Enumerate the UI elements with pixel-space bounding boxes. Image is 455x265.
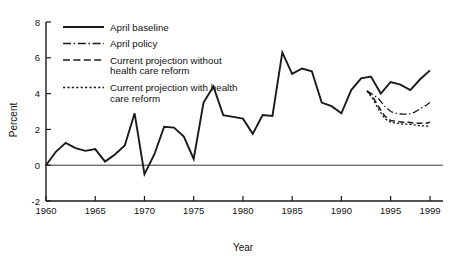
y-tick-label: 4 (35, 88, 40, 99)
y-axis-title: Percent (8, 103, 19, 138)
legend-label: Current projection with health (110, 82, 237, 93)
y-tick-label: 6 (35, 52, 40, 63)
plot-background (0, 0, 455, 265)
x-tick-label: 1960 (35, 205, 56, 216)
legend-label: April policy (110, 38, 157, 49)
x-tick-label: 1975 (183, 205, 204, 216)
legend-label: Current projection without (110, 55, 222, 66)
x-tick-label: 1985 (282, 205, 303, 216)
y-tick-label: 0 (35, 160, 40, 171)
x-tick-label: 1990 (331, 205, 352, 216)
x-tick-label: 1999 (419, 205, 440, 216)
x-tick-label: 1970 (134, 205, 155, 216)
y-tick-label: 8 (35, 17, 40, 28)
legend-label-line2: care reform (110, 93, 160, 104)
x-axis-title: Year (233, 242, 254, 253)
x-tick-label: 1980 (232, 205, 253, 216)
x-tick-label: 1995 (380, 205, 401, 216)
chart-container: -202468196019651970197519801985199019951… (0, 0, 455, 265)
legend-label: April baseline (110, 22, 169, 33)
line-chart: -202468196019651970197519801985199019951… (0, 0, 455, 265)
legend-label-line2: health care reform (110, 65, 190, 76)
x-tick-label: 1965 (85, 205, 106, 216)
y-tick-label: 2 (35, 124, 40, 135)
